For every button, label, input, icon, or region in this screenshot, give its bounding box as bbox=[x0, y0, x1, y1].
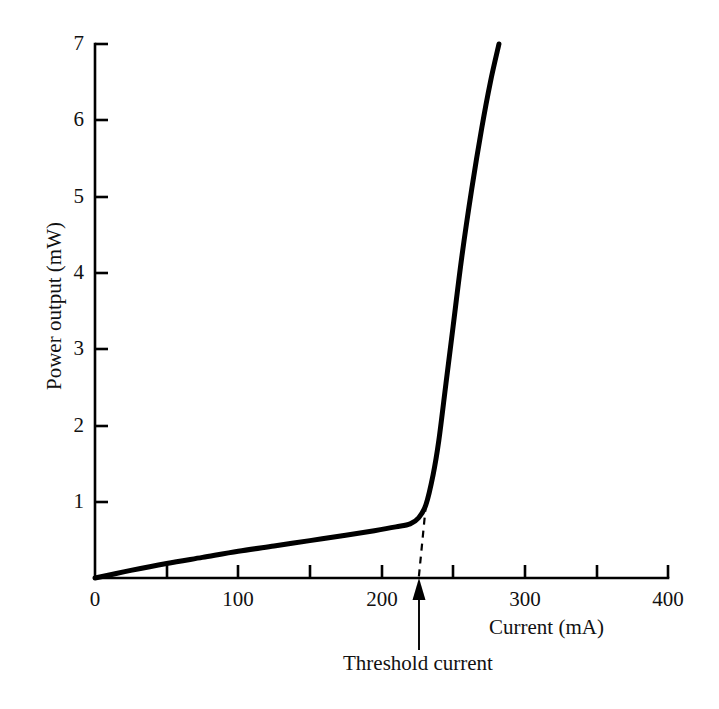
x-tick-label-0: 0 bbox=[75, 589, 115, 610]
y-axis-title: Power output (mW) bbox=[44, 222, 65, 390]
y-tick-label-6: 6 bbox=[62, 109, 84, 130]
y-tick-label-2: 2 bbox=[62, 415, 84, 436]
x-tick-label-400: 400 bbox=[638, 589, 698, 610]
y-tick-label-5: 5 bbox=[62, 186, 84, 207]
y-axis-ticks bbox=[95, 44, 108, 502]
y-tick-label-1: 1 bbox=[62, 491, 84, 512]
figure-container: 7 6 5 4 3 2 1 0 100 200 300 400 Power ou… bbox=[0, 0, 719, 709]
x-axis-ticks bbox=[167, 565, 668, 578]
x-tick-label-300: 300 bbox=[495, 589, 555, 610]
y-tick-label-7: 7 bbox=[62, 33, 84, 54]
power-current-curve bbox=[95, 44, 499, 578]
threshold-arrow bbox=[413, 578, 426, 650]
x-tick-label-200: 200 bbox=[352, 589, 412, 610]
page-caption-fragment bbox=[0, 689, 719, 709]
x-axis-title: Current (mA) bbox=[489, 617, 604, 638]
threshold-current-label: Threshold current bbox=[343, 653, 493, 674]
x-tick-label-100: 100 bbox=[208, 589, 268, 610]
